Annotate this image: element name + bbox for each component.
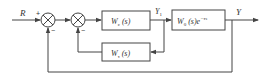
input-label: R — [19, 8, 26, 18]
intermediate-label: Y1 — [155, 7, 162, 17]
outer-feedback-line — [48, 20, 232, 72]
inner-feedback-line — [151, 20, 164, 52]
controller-label: Wc (s) — [111, 17, 131, 27]
sum1-plus-sign: + — [36, 10, 40, 17]
feedback-label: Wτ (s) — [111, 49, 130, 59]
sum2-minus-sign: − — [81, 27, 85, 34]
block-diagram: R + − − Wc (s) W0 (s)e−τs Wτ (s) Y1 Y — [0, 0, 271, 84]
sum1-minus-sign: − — [51, 27, 55, 34]
summing-junction-1 — [41, 13, 55, 27]
summing-junction-2 — [71, 13, 85, 27]
plant-label: W0 (s)e−τs — [177, 16, 207, 27]
output-label: Y — [236, 7, 242, 17]
